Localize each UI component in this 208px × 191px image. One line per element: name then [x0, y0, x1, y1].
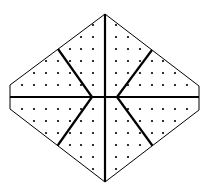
- grid-dot: [57, 60, 59, 62]
- grid-dot: [127, 156, 129, 158]
- grid-dot: [57, 72, 59, 74]
- grid-dot: [69, 48, 71, 50]
- grid-dot: [45, 60, 47, 62]
- grid-dot: [174, 108, 176, 110]
- grid-dot: [115, 108, 117, 110]
- hexagon-dot-grid-diagram: [0, 0, 208, 191]
- grid-dot: [115, 72, 117, 74]
- grid-dot: [92, 24, 94, 26]
- grid-dot: [162, 72, 164, 74]
- grid-dot: [139, 72, 141, 74]
- grid-dot: [80, 36, 82, 38]
- grid-dot: [127, 120, 129, 122]
- grid-dot: [127, 132, 129, 134]
- grid-dot: [45, 120, 47, 122]
- spoke-line: [117, 50, 152, 97]
- grid-dot: [127, 60, 129, 62]
- grid-dot: [33, 120, 35, 122]
- grid-dot: [115, 48, 117, 50]
- spoke-line: [58, 97, 92, 145]
- grid-dot: [21, 108, 23, 110]
- grid-dot: [174, 72, 176, 74]
- grid-dot: [57, 108, 59, 110]
- grid-dot: [45, 84, 47, 86]
- grid-dot: [139, 144, 141, 146]
- grid-dot: [80, 144, 82, 146]
- grid-dot: [80, 72, 82, 74]
- grid-dot: [115, 84, 117, 86]
- grid-dot: [69, 84, 71, 86]
- grid-dot: [139, 60, 141, 62]
- center-axis-lines: [10, 14, 199, 182]
- spoke-line: [117, 97, 152, 145]
- grid-dot: [69, 144, 71, 146]
- grid-dot: [139, 132, 141, 134]
- grid-dot: [92, 108, 94, 110]
- grid-dot: [45, 108, 47, 110]
- grid-dot: [45, 132, 47, 134]
- grid-dot: [115, 24, 117, 26]
- grid-dot: [69, 120, 71, 122]
- grid-dot: [69, 60, 71, 62]
- grid-dot: [80, 60, 82, 62]
- grid-dot: [33, 84, 35, 86]
- grid-dot: [57, 120, 59, 122]
- grid-dot: [92, 72, 94, 74]
- grid-dot: [80, 132, 82, 134]
- grid-dot: [92, 156, 94, 158]
- grid-dot: [115, 120, 117, 122]
- grid-dot: [127, 72, 129, 74]
- grid-dot: [69, 132, 71, 134]
- grid-dot: [151, 132, 153, 134]
- grid-dot: [127, 144, 129, 146]
- grid-dot: [162, 120, 164, 122]
- grid-dot: [139, 120, 141, 122]
- grid-dot: [92, 84, 94, 86]
- grid-dot: [151, 72, 153, 74]
- grid-dot: [92, 120, 94, 122]
- grid-dot: [174, 120, 176, 122]
- grid-dot: [33, 108, 35, 110]
- grid-dot: [33, 72, 35, 74]
- grid-dot: [139, 108, 141, 110]
- grid-dot: [45, 72, 47, 74]
- grid-dot: [80, 156, 82, 158]
- spoke-line: [58, 49, 92, 97]
- grid-dot: [162, 60, 164, 62]
- grid-dot: [151, 84, 153, 86]
- grid-dot: [186, 108, 188, 110]
- grid-dot: [186, 84, 188, 86]
- grid-dot: [162, 108, 164, 110]
- grid-dot: [69, 72, 71, 74]
- grid-dot: [115, 60, 117, 62]
- grid-dot: [21, 84, 23, 86]
- grid-dot: [92, 60, 94, 62]
- grid-dot: [69, 108, 71, 110]
- grid-dot: [80, 48, 82, 50]
- grid-dot: [92, 48, 94, 50]
- grid-dot: [151, 108, 153, 110]
- grid-dot: [115, 132, 117, 134]
- grid-dot: [127, 48, 129, 50]
- grid-dot: [92, 144, 94, 146]
- grid-dot: [115, 36, 117, 38]
- grid-dot: [151, 60, 153, 62]
- grid-dot: [162, 84, 164, 86]
- grid-dot: [115, 156, 117, 158]
- grid-dot: [57, 84, 59, 86]
- grid-dot: [92, 168, 94, 170]
- grid-dot: [127, 36, 129, 38]
- grid-dot: [92, 36, 94, 38]
- grid-dot: [139, 84, 141, 86]
- grid-dot: [174, 84, 176, 86]
- grid-dot: [57, 132, 59, 134]
- grid-dot: [80, 120, 82, 122]
- grid-dot: [162, 132, 164, 134]
- grid-dot: [151, 120, 153, 122]
- grid-dot: [139, 48, 141, 50]
- grid-dot: [115, 168, 117, 170]
- grid-dot: [115, 144, 117, 146]
- grid-dot: [92, 132, 94, 134]
